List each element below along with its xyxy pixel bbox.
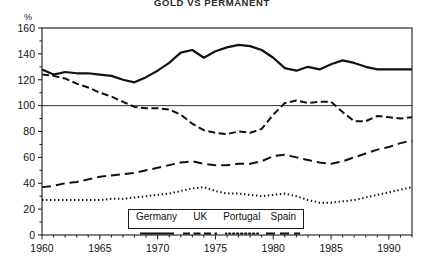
legend-swatch-uk: [183, 222, 217, 227]
y-axis-tick-label: 140: [17, 48, 35, 60]
legend-item-spain[interactable]: Spain: [266, 211, 300, 227]
chart-container: GOLD VS PERMANENT % 02040608010012014016…: [0, 0, 424, 270]
plot-area: 0204060801001201401601960196519701975198…: [0, 0, 424, 270]
legend-swatch-germany: [140, 222, 174, 227]
legend-swatch-spain: [266, 222, 300, 227]
chart-legend: GermanyUKPortugalSpain: [128, 209, 304, 229]
y-axis-tick-label: 0: [29, 229, 35, 241]
legend-label: Portugal: [223, 211, 260, 222]
x-axis-tick-label: 1965: [88, 242, 112, 254]
x-axis-tick-label: 1975: [204, 242, 228, 254]
legend-swatch-portugal: [225, 222, 259, 227]
y-axis-tick-label: 120: [17, 74, 35, 86]
y-axis-tick-label: 80: [23, 125, 35, 137]
y-axis-tick-label: 100: [17, 99, 35, 111]
series-line-uk: [42, 75, 412, 135]
legend-item-germany[interactable]: Germany: [136, 211, 177, 227]
x-axis-tick-label: 1970: [146, 242, 170, 254]
series-line-germany: [42, 45, 412, 83]
legend-label: Germany: [136, 211, 177, 222]
legend-label: UK: [193, 211, 207, 222]
x-axis-tick-label: 1980: [262, 242, 286, 254]
series-line-spain: [42, 141, 412, 188]
y-axis-tick-label: 20: [23, 203, 35, 215]
legend-item-uk[interactable]: UK: [183, 211, 217, 227]
x-axis-tick-label: 1985: [319, 242, 343, 254]
legend-label: Spain: [271, 211, 297, 222]
y-axis-tick-label: 60: [23, 151, 35, 163]
x-axis-tick-label: 1960: [30, 242, 54, 254]
series-line-portugal: [42, 187, 412, 203]
x-axis-tick-label: 1990: [377, 242, 401, 254]
y-axis-tick-label: 40: [23, 177, 35, 189]
y-axis-tick-label: 160: [17, 22, 35, 34]
legend-item-portugal[interactable]: Portugal: [223, 211, 260, 227]
plot-frame: [42, 28, 412, 235]
